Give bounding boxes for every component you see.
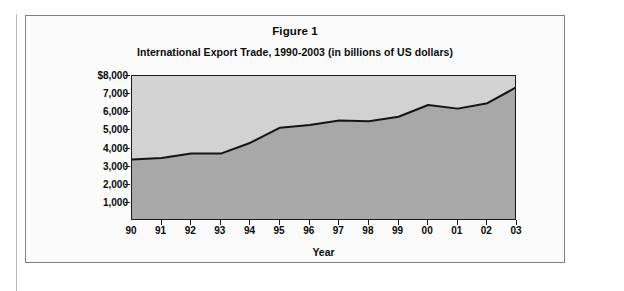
y-axis-tick: [125, 202, 130, 203]
x-axis-tick-label: 90: [125, 225, 136, 236]
x-axis-tick-label: 03: [510, 225, 521, 236]
y-axis-tick: [125, 148, 130, 149]
x-axis-tick: [457, 220, 458, 225]
x-axis-title: Year: [131, 246, 516, 258]
y-axis-tick-label: $8,000: [97, 70, 128, 81]
x-axis-tick-label: 93: [214, 225, 225, 236]
x-axis-tick-label: 94: [244, 225, 255, 236]
page-edge-rule: [16, 14, 17, 291]
y-axis-tick: [125, 111, 130, 112]
y-axis-tick: [125, 184, 130, 185]
x-axis-tick-label: 99: [392, 225, 403, 236]
x-axis-tick-label: 98: [362, 225, 373, 236]
y-axis-labels: $8,0007,0006,0005,0004,0003,0002,0001,00…: [56, 75, 128, 220]
x-axis-tick: [249, 220, 250, 225]
x-axis-tick-label: 01: [451, 225, 462, 236]
x-axis-tick: [486, 220, 487, 225]
chart: $8,0007,0006,0005,0004,0003,0002,0001,00…: [26, 16, 566, 264]
x-axis-tick-label: 92: [185, 225, 196, 236]
x-axis-tick: [279, 220, 280, 225]
y-axis-tick: [125, 166, 130, 167]
x-axis-tick-label: 96: [303, 225, 314, 236]
x-axis-tick: [309, 220, 310, 225]
x-axis-tick: [516, 220, 517, 225]
plot-area: [131, 75, 516, 220]
x-axis-labels: 9091929394959697989900010203: [131, 225, 516, 243]
x-axis-tick: [398, 220, 399, 225]
x-axis-tick-label: 91: [155, 225, 166, 236]
x-axis-tick: [220, 220, 221, 225]
y-axis-tick: [125, 93, 130, 94]
figure-container: Figure 1 International Export Trade, 199…: [25, 15, 565, 263]
x-axis-tick: [161, 220, 162, 225]
page-canvas: Figure 1 International Export Trade, 199…: [0, 0, 624, 291]
x-axis-tick: [190, 220, 191, 225]
x-axis-tick: [427, 220, 428, 225]
x-axis-tick: [368, 220, 369, 225]
area-chart-svg: [132, 76, 516, 220]
x-axis-tick-label: 02: [481, 225, 492, 236]
x-axis-tick: [338, 220, 339, 225]
x-axis-tick-label: 97: [333, 225, 344, 236]
y-axis-tick: [125, 75, 130, 76]
y-axis-tick: [125, 129, 130, 130]
x-axis-tick-label: 95: [274, 225, 285, 236]
x-axis-tick-label: 00: [422, 225, 433, 236]
